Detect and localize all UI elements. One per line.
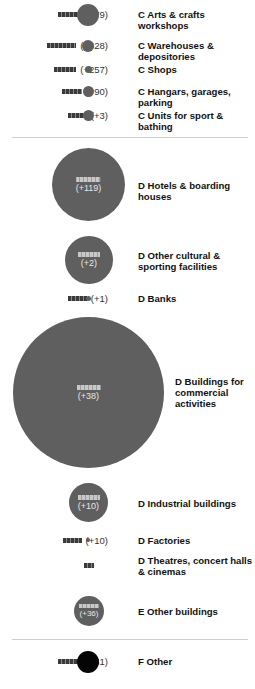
group-divider [12, 137, 248, 138]
change-value: (+119) [76, 183, 102, 193]
category-label: D Theatres, concert halls & cinemas [138, 555, 253, 577]
redacted-value [79, 604, 99, 608]
row-commercial: (+38) D Buildings for commercial activit… [0, 317, 255, 469]
row-other-cultural: (+2) D Other cultural & sporting facilit… [0, 236, 255, 284]
redacted-value [68, 296, 87, 301]
redacted-value [76, 177, 100, 182]
label-line: commercial [175, 387, 253, 398]
value-group: (+36) [79, 604, 99, 618]
redacted-value [62, 89, 82, 94]
category-label: C Arts & crafts workshops [138, 9, 253, 31]
category-label: D Banks [138, 293, 253, 304]
row-f-other: (-51) F Other [0, 651, 255, 673]
change-value: (+36) [80, 609, 99, 618]
bubble [86, 296, 91, 301]
value-group: (+257) [54, 64, 108, 75]
row-hangars: (+90) C Hangars, garages, parking [0, 86, 255, 97]
bubble [85, 66, 92, 73]
bubble [86, 538, 90, 542]
bubble: (+10) [69, 483, 108, 522]
bubble [77, 651, 99, 673]
redacted-value [63, 538, 82, 543]
value-group: (+628) [47, 40, 108, 51]
bubble-chart: (+79) C Arts & crafts workshops (+628) C… [0, 0, 255, 689]
category-label: F Other [138, 656, 253, 667]
category-label: D Hotels & boarding houses [138, 180, 253, 202]
value-group: (+2) [78, 252, 100, 268]
label-line: activities [175, 398, 253, 409]
label-line: & cinemas [138, 566, 253, 577]
row-factories: (+10) D Factories [0, 538, 255, 543]
bubble [83, 110, 94, 121]
category-label: D Buildings for commercial activities [175, 376, 253, 409]
redacted-value [84, 563, 94, 568]
label-line: sporting facilities [138, 261, 253, 272]
category-label: C Warehouses & depositories [138, 40, 253, 62]
label-line: D Other cultural & [138, 250, 253, 261]
redacted-value [78, 495, 100, 500]
group-divider [12, 639, 248, 640]
change-value: (+2) [81, 258, 97, 268]
category-label: D Other cultural & sporting facilities [138, 250, 253, 272]
change-value: (+38) [78, 391, 99, 401]
bubble: (+38) [13, 317, 164, 468]
bubble: (+36) [74, 596, 104, 626]
row-banks: (+1) D Banks [0, 296, 255, 302]
row-arts-crafts: (+79) C Arts & crafts workshops [0, 4, 255, 26]
value-group: (+10) [78, 495, 100, 511]
bubble [83, 86, 94, 97]
label-line: D Theatres, concert halls [138, 555, 253, 566]
row-shops: (+257) C Shops [0, 66, 255, 74]
value-group: (+119) [76, 177, 102, 193]
redacted-value [77, 385, 101, 390]
bubble: (+2) [65, 236, 113, 284]
category-label: D Factories [138, 535, 253, 546]
bubble: (+119) [52, 148, 125, 221]
redacted-value [47, 43, 76, 48]
row-warehouses: (+628) C Warehouses & depositories [0, 40, 255, 52]
category-label: E Other buildings [138, 606, 253, 617]
category-label: D Industrial buildings [138, 498, 253, 509]
redacted-value [78, 252, 100, 257]
change-value: (+10) [78, 501, 99, 511]
row-theatres: D Theatres, concert halls & cinemas [0, 555, 255, 577]
redacted-value [54, 67, 76, 72]
category-label: C Hangars, garages, parking [138, 86, 253, 108]
change-value: (+1) [91, 293, 108, 304]
category-label: C Shops [138, 64, 253, 75]
row-units-sport: (+3) C Units for sport & bathing [0, 110, 255, 121]
category-label: C Units for sport & bathing [138, 110, 253, 132]
bubble [82, 40, 94, 52]
row-hotels: (+119) D Hotels & boarding houses [0, 148, 255, 222]
bubble [77, 4, 99, 26]
value-group: (+38) [77, 385, 101, 401]
row-industrial: (+10) D Industrial buildings [0, 483, 255, 522]
row-e-other: (+36) E Other buildings [0, 596, 255, 626]
label-line: D Buildings for [175, 376, 253, 387]
